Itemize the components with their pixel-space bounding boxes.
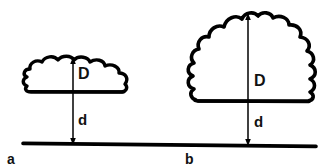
panel-a-cloud-group bbox=[23, 56, 127, 92]
panel-letter-b: b bbox=[185, 152, 194, 166]
ground-line bbox=[23, 143, 316, 146]
cloud-depth-diagram: D d D d a b bbox=[0, 0, 332, 168]
base-height-label-a: d bbox=[78, 112, 87, 127]
base-height-label-b: d bbox=[254, 114, 263, 129]
panel-b-cloud-group bbox=[188, 13, 315, 102]
depth-label-a: D bbox=[78, 66, 90, 82]
panel-letter-a: a bbox=[7, 152, 15, 166]
depth-label-b: D bbox=[254, 73, 266, 89]
cloud-outline-b bbox=[188, 13, 315, 101]
cloud-base-line-b bbox=[198, 101, 309, 102]
diagram-canvas bbox=[0, 0, 332, 168]
cloud-outline-a bbox=[23, 56, 127, 92]
